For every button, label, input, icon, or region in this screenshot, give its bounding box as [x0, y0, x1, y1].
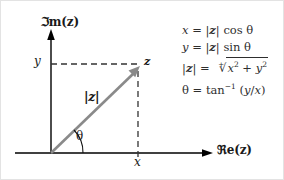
- x-tick-label: x: [134, 155, 141, 169]
- real-axis-label: ℜe(z): [217, 143, 252, 157]
- y-equation: y = |z| sin θ: [182, 40, 268, 54]
- real-axis: [15, 149, 213, 157]
- y-tick-label: y: [34, 54, 41, 68]
- x-equation: x = |z| cos θ: [182, 23, 268, 37]
- equation-list: x = |z| cos θ y = |z| sin θ |z| = +√x2 +…: [182, 23, 268, 97]
- theta-angle-label: θ: [76, 129, 83, 143]
- modulus-equation: |z| = +√x2 + y2: [182, 57, 268, 77]
- modulus-label: |z|: [84, 89, 99, 104]
- point-z-label: z: [144, 55, 150, 68]
- complex-plane-figure: ℑm(z) ℜe(z) y x z |z| θ x = |z| cos θ y …: [0, 0, 284, 180]
- theta-equation: θ = tan−1 (y/x): [182, 80, 268, 97]
- imaginary-axis: [47, 29, 55, 153]
- imaginary-axis-label: ℑm(z): [41, 15, 79, 29]
- modulus-vector: [51, 66, 140, 153]
